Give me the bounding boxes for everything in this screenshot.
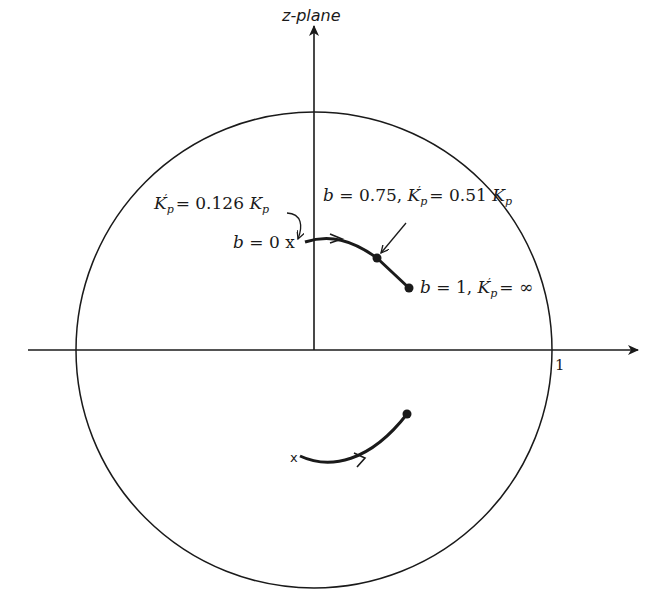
gain-start-label: Kp′ = 0.126 Kp xyxy=(154,192,269,216)
plane-title: z-plane xyxy=(282,6,341,25)
lower-root-locus: x xyxy=(290,410,412,468)
mid-point-dot xyxy=(373,254,382,263)
lower-end-dot xyxy=(403,410,412,419)
end-point-dot xyxy=(405,284,414,293)
unit-tick-label: 1 xyxy=(555,356,565,374)
upper-root-locus xyxy=(305,234,414,293)
end-point-label: b = 1, Kp′ = ∞ xyxy=(420,276,533,300)
mid-pointer-arrow xyxy=(381,223,406,253)
start-point-label: b = 0 x xyxy=(233,232,295,252)
z-plane-diagram: x xyxy=(0,0,654,605)
mid-point-label: b = 0.75, Kp′ = 0.51 Kp xyxy=(323,184,512,208)
lower-pole-marker: x xyxy=(290,450,298,465)
